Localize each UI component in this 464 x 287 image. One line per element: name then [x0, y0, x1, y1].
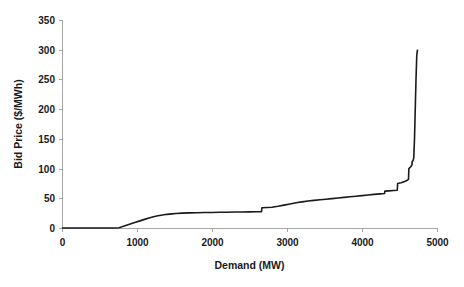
x-tick-label: 2000	[201, 237, 224, 248]
y-tick-label: 100	[38, 164, 55, 175]
x-axis-tick-labels: 010002000300040005000	[60, 237, 449, 248]
y-tick-label: 50	[44, 193, 56, 204]
chart-canvas: 050100150200250300350 010002000300040005…	[0, 0, 464, 287]
x-axis-title: Demand (MW)	[215, 259, 285, 271]
y-axis-tick-labels: 050100150200250300350	[38, 15, 55, 234]
y-tick-label: 300	[38, 45, 55, 56]
x-tick-label: 1000	[126, 237, 149, 248]
y-tick-label: 200	[38, 104, 55, 115]
x-tick-label: 3000	[276, 237, 299, 248]
y-tick-label: 150	[38, 134, 55, 145]
supply-curve-line	[62, 50, 418, 228]
y-tick-label: 350	[38, 15, 55, 26]
bid-price-demand-chart: 050100150200250300350 010002000300040005…	[0, 0, 464, 287]
x-tick-label: 4000	[351, 237, 374, 248]
y-axis-title: Bid Price ($/MWh)	[12, 79, 24, 168]
x-tick-label: 0	[60, 237, 66, 248]
y-axis-tick-marks	[59, 21, 62, 229]
x-tick-label: 5000	[426, 237, 449, 248]
y-tick-label: 250	[38, 74, 55, 85]
y-tick-label: 0	[49, 223, 55, 234]
